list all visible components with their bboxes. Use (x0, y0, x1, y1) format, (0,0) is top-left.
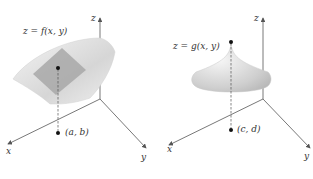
right-point-label: (c, d) (237, 125, 261, 134)
left-surface-label: z = f(x, y) (23, 27, 67, 36)
right-surface-label: z = g(x, y) (173, 42, 220, 51)
left-y-label: y (141, 153, 146, 162)
right-x-axis (169, 99, 263, 145)
left-surface-point (56, 66, 60, 70)
left-x-label: x (6, 147, 11, 156)
right-z-label: z (254, 14, 259, 23)
left-point-label: (a, b) (65, 128, 89, 137)
left-domain-point (56, 131, 60, 135)
right-x-label: x (167, 145, 172, 154)
left-y-axis (100, 99, 146, 148)
left-z-label: z (91, 14, 96, 23)
right-y-label: y (304, 152, 309, 161)
left-x-axis (8, 99, 100, 144)
right-y-axis (263, 99, 310, 148)
right-domain-point (229, 128, 233, 132)
right-peak-point (229, 40, 233, 44)
